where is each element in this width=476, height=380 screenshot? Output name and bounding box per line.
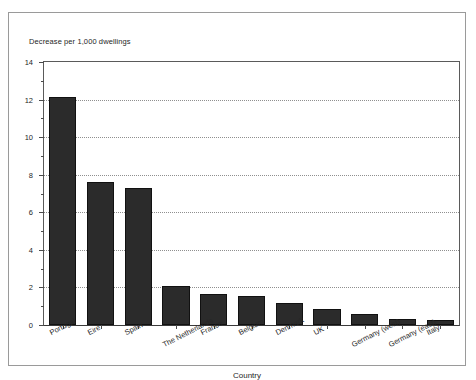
y-tick-major [39,175,44,176]
y-tick-major [39,100,44,101]
bar [351,314,378,325]
y-tick-label: 0 [29,321,33,330]
y-tick-major [39,62,44,63]
y-tick-label: 10 [25,133,33,142]
y-tick-label: 2 [29,283,33,292]
y-tick-minor [41,118,44,119]
x-axis-title: Country [9,371,476,380]
y-tick-label: 6 [29,208,33,217]
y-tick-label: 12 [25,95,33,104]
bar [125,188,152,325]
y-axis-title: Decrease per 1,000 dwellings [29,37,131,46]
y-tick-minor [41,306,44,307]
y-tick-minor [41,231,44,232]
bar [49,97,76,325]
x-axis-label: UK [312,324,325,337]
y-tick-minor [41,269,44,270]
y-tick-minor [41,156,44,157]
y-tick-major [39,250,44,251]
gridline [44,137,459,138]
plot-area: 02468101214 [43,61,460,326]
y-tick-minor [41,194,44,195]
gridline [44,100,459,101]
y-tick-major [39,325,44,326]
chart-frame: Decrease per 1,000 dwellings 02468101214… [8,12,466,366]
y-tick-minor [41,81,44,82]
y-tick-major [39,212,44,213]
y-tick-label: 14 [25,58,33,67]
y-tick-major [39,137,44,138]
bar [313,309,340,325]
gridline [44,175,459,176]
bar [87,182,114,325]
y-tick-label: 4 [29,245,33,254]
y-tick-label: 8 [29,170,33,179]
x-axis-labels: PortugalEireSpainThe NetherlandsFranceBe… [43,329,458,375]
y-tick-major [39,287,44,288]
bar [162,286,189,325]
